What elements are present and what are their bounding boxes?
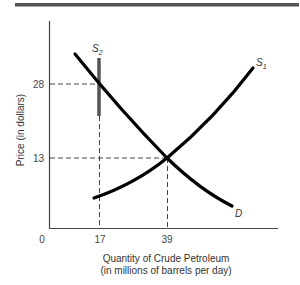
y-tick-13: 13 (33, 153, 45, 164)
guide-lines (50, 84, 168, 228)
supply-demand-chart: 28 13 0 17 39 Price (in dollars) Quantit… (0, 0, 300, 285)
x-tick-17: 17 (94, 234, 106, 245)
label-s2: S2 (92, 43, 103, 56)
y-tick-28: 28 (33, 79, 45, 90)
y-axis-label: Price (in dollars) (15, 94, 26, 166)
label-d: D (235, 208, 242, 219)
x-tick-0: 0 (39, 234, 45, 245)
label-s1: S1 (256, 57, 267, 70)
x-tick-39: 39 (161, 234, 173, 245)
label-s1-sub: 1 (263, 63, 267, 70)
label-s2-sub: 2 (98, 49, 103, 56)
x-axis-label-line1: Quantity of Crude Petroleum (103, 253, 230, 264)
top-rule (15, 3, 299, 7)
curve-s1 (94, 68, 253, 198)
x-axis-label-line2: (in millions of barrels per day) (100, 265, 231, 276)
